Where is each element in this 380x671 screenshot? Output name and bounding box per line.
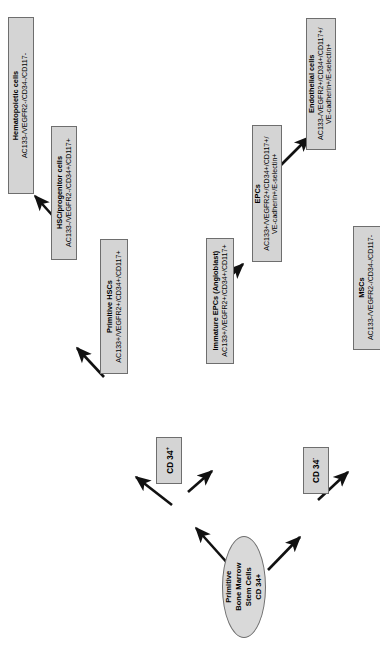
chip-sign: + xyxy=(164,447,170,451)
chip-cd34-positive[interactable]: CD 34+ xyxy=(156,437,182,484)
node-markers: AC133-/VEGFR2-/CD34-/CD117- xyxy=(21,53,29,158)
chip-label: CD 34 xyxy=(312,460,321,483)
edge-cd34pos-to-immature-epcs xyxy=(188,471,212,492)
node-markers: AC133+/VEGFR2+/CD34+/CD117+ xyxy=(220,245,228,357)
chip-label: CD 34 xyxy=(165,451,174,474)
node-primitive-hscs[interactable]: Primitive HSCs AC133+/VEGFR2+/CD34+/CD11… xyxy=(100,239,128,374)
node-markers-line1: AC133-/VEGFR2+/CD34+/CD117+/ xyxy=(317,28,325,140)
edge-epcs-to-endothelial xyxy=(280,137,309,166)
root-label-line2: Bone Marrow xyxy=(234,563,243,611)
node-mscs[interactable]: MSCs AC133-/VEGFR2-/CD34-/CD117- xyxy=(353,226,380,350)
node-primitive-bone-marrow-stem-cells[interactable]: Primitive Bone Marrow Stem Cells CD 34+ xyxy=(222,536,266,638)
node-title: Primitive HSCs xyxy=(105,250,114,362)
node-endothelial-cells[interactable]: Endothelial cells AC133-/VEGFR2+/CD34+/C… xyxy=(306,18,336,150)
node-immature-epcs[interactable]: Immature EPCs (Angioblast) AC133+/VEGFR2… xyxy=(206,238,234,364)
node-markers: AC133-/VEGFR2-/CD34-/CD117- xyxy=(367,235,375,340)
diagram-canvas: Hematopoietic cells AC133-/VEGFR2-/CD34-… xyxy=(0,0,380,671)
node-hsc-progenitor-cells[interactable]: HSC/progenitor cells AC133-/VEGFR2-/CD34… xyxy=(51,126,77,260)
node-markers-line2: VE-cadherin+/E-selectin+ xyxy=(325,28,333,140)
node-markers-line2: VE-cadherin+/E-selectin+ xyxy=(271,136,279,250)
chip-cd34-negative[interactable]: CD 34- xyxy=(303,447,329,494)
chip-sign: - xyxy=(311,458,317,460)
node-epcs[interactable]: EPCs AC133+/VEGFR2+/CD34+/CD117+/ VE-cad… xyxy=(252,125,282,262)
edge-root-to-cd34neg xyxy=(268,537,300,570)
node-hematopoietic-cells[interactable]: Hematopoietic cells AC133-/VEGFR2-/CD34-… xyxy=(8,17,34,194)
node-markers: AC133-/VEGFR2-/CD34+/CD117+ xyxy=(64,139,72,248)
node-title: EPCs xyxy=(254,136,263,250)
root-label-line4: CD 34+ xyxy=(254,574,263,600)
node-title: HSC/progenitor cells xyxy=(55,139,64,248)
node-markers: AC133+/VEGFR2+/CD34+/CD117+ xyxy=(114,250,122,362)
node-title: Immature EPCs (Angioblast) xyxy=(211,245,220,357)
root-label-line1: Primitive xyxy=(224,571,233,603)
node-title: Endothelial cells xyxy=(308,28,317,140)
root-label-line3: Stem Cells xyxy=(244,568,253,607)
node-markers-line1: AC133+/VEGFR2+/CD34+/CD117+/ xyxy=(263,136,271,250)
